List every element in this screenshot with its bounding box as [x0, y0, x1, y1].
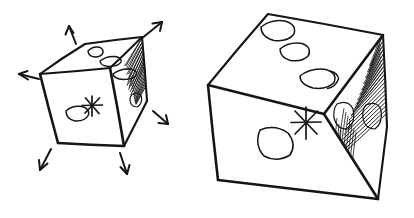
- arrow-right-down-icon: [153, 111, 168, 124]
- arrow-down-icon: [120, 153, 130, 174]
- arrow-up-left-icon: [66, 26, 77, 44]
- large-cube: [208, 14, 387, 199]
- small-cube: [40, 37, 147, 146]
- arrow-down-left-icon: [39, 149, 51, 170]
- cube-scaling-drawing: [0, 0, 414, 218]
- arrow-up-right-icon: [141, 22, 162, 39]
- arrow-left-icon: [19, 71, 39, 80]
- small-cube-face-fills: [40, 37, 147, 146]
- figure-canvas: Hand-drawn cube scaling illustration Two…: [0, 0, 414, 218]
